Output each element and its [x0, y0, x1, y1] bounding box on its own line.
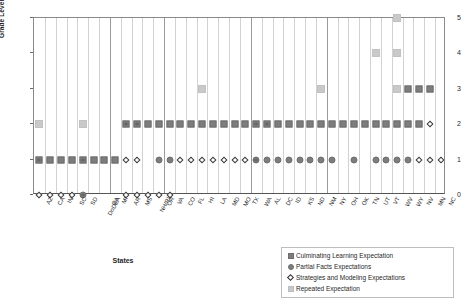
gridline	[262, 18, 263, 193]
gridline	[164, 18, 165, 193]
data-point-marker	[264, 121, 271, 128]
data-point-marker	[393, 85, 401, 93]
legend-item-label: Partial Facts Expectations	[296, 261, 371, 272]
x-axis-tick-label: MO	[242, 196, 252, 207]
data-point-marker	[405, 156, 412, 163]
gridline	[197, 18, 198, 193]
data-point-marker	[318, 121, 325, 128]
legend-item: Partial Facts Expectations	[285, 261, 450, 272]
data-point-marker	[296, 156, 303, 163]
gridline	[142, 18, 143, 193]
legend-item-label: Culminating Learning Expectation	[296, 250, 393, 261]
gridline	[403, 18, 404, 193]
x-axis-tick-label: AL	[273, 196, 282, 205]
data-point-marker	[415, 121, 422, 128]
data-point-marker	[318, 156, 325, 163]
legend-marker-icon	[285, 264, 296, 270]
data-point-marker	[47, 156, 54, 163]
gridline	[186, 18, 187, 193]
data-point-marker	[437, 156, 444, 163]
data-point-marker	[177, 156, 184, 163]
data-point-marker	[372, 121, 379, 128]
data-point-marker	[285, 121, 292, 128]
data-point-marker	[405, 121, 412, 128]
x-axis-tick-label: SC	[78, 196, 87, 206]
x-axis-tick-label: AZ	[45, 196, 54, 206]
x-axis-tick-label: MN	[437, 196, 447, 207]
x-axis-tick-label: IN	[66, 196, 74, 204]
data-point-marker	[394, 156, 401, 163]
x-axis-tick-label: HI	[207, 196, 215, 204]
data-point-marker	[383, 156, 390, 163]
gridline	[229, 18, 230, 193]
data-point-marker	[253, 156, 260, 163]
open-diamond-icon	[287, 274, 294, 281]
data-point-marker	[264, 156, 271, 163]
gridline	[240, 18, 241, 193]
data-point-marker	[166, 156, 173, 163]
gridline	[424, 18, 425, 193]
legend-item-label: Strategies and Modeling Expectations	[296, 272, 405, 283]
x-axis-tick-label: MS	[144, 196, 154, 207]
data-point-marker	[426, 85, 433, 92]
data-point-marker	[112, 156, 119, 163]
data-point-marker	[123, 156, 130, 163]
x-axis-tick-label: VT	[392, 196, 401, 206]
x-axis-tick-label: NM	[328, 196, 338, 207]
x-axis-tick-label: SD	[89, 196, 98, 206]
gridline	[348, 18, 349, 193]
x-axis-tick-label: DC	[285, 196, 294, 206]
x-axis-tick-label: WV	[404, 196, 414, 207]
y-axis-title: Grade Level (0 = Kindergarten)	[0, 0, 5, 38]
data-point-marker	[415, 156, 422, 163]
gridline	[413, 18, 414, 193]
data-point-marker	[123, 121, 130, 128]
data-point-marker	[90, 156, 97, 163]
data-point-marker	[296, 121, 303, 128]
data-point-marker	[383, 121, 390, 128]
x-axis-title-wrap: States	[33, 249, 213, 267]
x-axis-tick-label: AR	[133, 196, 142, 206]
dark-circle-icon	[288, 264, 294, 270]
data-point-marker	[177, 121, 184, 128]
legend-marker-icon	[285, 253, 296, 259]
x-axis-tick-label: MI	[121, 196, 129, 205]
data-point-marker	[242, 156, 249, 163]
data-point-marker	[415, 85, 422, 92]
data-point-marker	[68, 156, 75, 163]
gridline	[153, 18, 154, 193]
gridline	[132, 18, 133, 193]
legend-marker-icon	[285, 286, 296, 292]
x-axis-tick-label: ND	[317, 196, 326, 206]
data-point-marker	[307, 156, 314, 163]
dark-square-icon	[288, 253, 294, 259]
data-point-marker	[329, 121, 336, 128]
x-axis-tick-label: NV	[425, 196, 434, 206]
data-point-marker	[350, 156, 357, 163]
gridline	[110, 18, 111, 193]
gridline	[327, 18, 328, 193]
gridline	[56, 18, 57, 193]
data-point-marker	[198, 85, 206, 93]
data-point-marker	[426, 121, 433, 128]
x-axis-tick-label: WA	[263, 196, 273, 207]
data-point-marker	[394, 121, 401, 128]
data-point-marker	[220, 121, 227, 128]
gridline	[99, 18, 100, 193]
x-axis-tick-label: NY	[339, 196, 348, 206]
gridline	[435, 18, 436, 193]
light-square-icon	[288, 286, 294, 292]
data-point-marker	[155, 156, 162, 163]
legend-item: Strategies and Modeling Expectations	[285, 272, 450, 283]
x-axis-tick-label: UT	[382, 196, 391, 206]
x-axis-tick-label: MD	[231, 196, 241, 207]
data-point-marker	[58, 156, 65, 163]
gridline	[88, 18, 89, 193]
legend-item: Culminating Learning Expectation	[285, 250, 450, 261]
x-axis-tick-label: OK	[360, 196, 369, 206]
data-point-marker	[426, 156, 433, 163]
gridline	[294, 18, 295, 193]
data-point-marker	[134, 121, 141, 128]
data-point-marker	[393, 49, 401, 57]
x-axis-tick-label: WY	[415, 196, 425, 207]
